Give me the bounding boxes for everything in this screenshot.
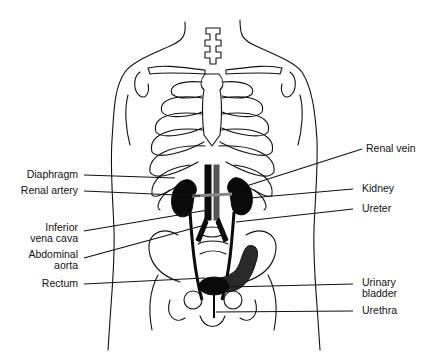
leader-abdominal-aorta — [84, 225, 205, 258]
label-rectum: Rectum — [10, 278, 78, 289]
label-renal-artery: Renal artery — [10, 185, 78, 196]
label-urinary-bladder: Urinary bladder — [362, 277, 397, 299]
sternum — [201, 74, 223, 146]
label-ureter: Ureter — [362, 203, 391, 214]
leader-rectum — [84, 278, 205, 284]
label-kidney: Kidney — [362, 183, 394, 194]
leader-urethra — [216, 311, 353, 312]
leader-ureter — [236, 209, 353, 222]
clavicle-right — [226, 66, 282, 74]
kidney-left — [172, 180, 197, 217]
kidney-right — [228, 178, 253, 215]
label-abdominal-aorta: Abdominal aorta — [10, 249, 78, 271]
clavicle-left — [148, 66, 205, 74]
cervical-spine — [205, 28, 221, 64]
urinary-bladder — [199, 277, 229, 295]
body-outline-left — [108, 22, 185, 350]
label-diaphragm: Diaphragm — [10, 169, 78, 180]
label-renal-vein: Renal vein — [366, 143, 416, 154]
leader-urinary-bladder — [228, 284, 353, 287]
label-inferior-vena-cava: Inferior vena cava — [10, 222, 78, 244]
label-urethra: Urethra — [362, 305, 397, 316]
body-outline-right — [240, 20, 320, 350]
leader-kidney — [250, 189, 353, 198]
anatomy-diagram: Diaphragm Renal artery Inferior vena cav… — [0, 0, 431, 358]
